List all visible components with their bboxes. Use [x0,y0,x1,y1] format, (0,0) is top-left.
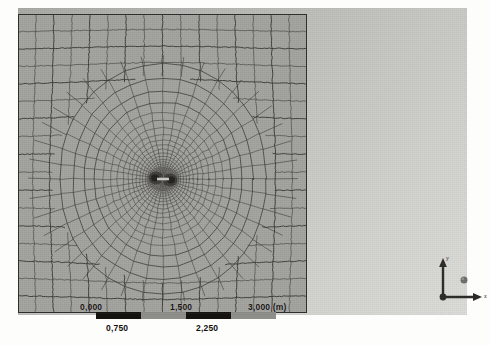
x-axis-arrow [443,293,482,301]
crack-slit [157,178,169,181]
scale-bar-segment-4 [231,312,276,319]
y-axis-arrow [439,258,447,297]
axis-triad-svg [434,255,490,307]
scale-bar-segment-1 [96,312,141,319]
scale-bar-segment-3 [186,312,231,319]
axis-triad: y x [434,255,490,307]
crack-tip-region [146,167,180,191]
x-axis-label: x [484,293,487,299]
scale-bar [96,312,276,319]
caption-showthrough [8,330,10,340]
scale-tick-label-2250: 2,250 [196,323,218,333]
scale-tick-label-0: 0,000 [80,302,102,312]
y-axis-label: y [446,255,449,261]
z-sphere-highlight [462,278,465,281]
scale-tick-label-1500: 1,500 [170,302,192,312]
fem-mesh [18,14,307,313]
z-sphere [461,277,468,284]
origin-dot [440,294,447,301]
scale-bar-segment-2 [141,312,186,319]
scale-tick-label-3000: 3,000 (m) [248,302,287,312]
scale-tick-label-0750: 0,750 [106,323,128,333]
fem-mesh-svg [18,14,307,313]
render-viewport: 0,000 1,500 3,000 (m) 0,750 2,250 [18,8,467,315]
